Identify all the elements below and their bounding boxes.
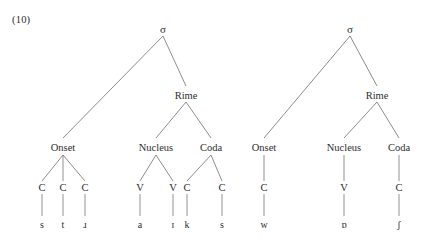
tree2-segment-open-o: ɒ xyxy=(341,220,346,230)
branch-sigma-onset-2 xyxy=(264,36,350,138)
tree2-nucleus-node: Nucleus xyxy=(327,143,361,154)
branch-onset-c3-1 xyxy=(63,155,85,181)
tree-branch-lines xyxy=(0,0,426,244)
branch-rime-nucleus-1 xyxy=(156,102,186,138)
branch-sigma-rime-2 xyxy=(350,36,377,86)
example-number: (10) xyxy=(12,14,30,25)
tree1-onset-slot-2: C xyxy=(59,183,66,194)
branch-coda-c1-1 xyxy=(187,155,211,181)
branch-onset-c1-1 xyxy=(42,155,63,181)
tree1-segment-i: ɪ xyxy=(172,220,175,230)
tree1-segment-s: s xyxy=(40,220,44,230)
tree2-nucleus-slot-1: V xyxy=(340,183,348,194)
tree1-coda-slot-2: C xyxy=(218,183,225,194)
tree2-rime-node: Rime xyxy=(366,91,389,102)
tree1-onset-slot-1: C xyxy=(38,183,45,194)
tree1-onset-node: Onset xyxy=(51,143,76,154)
tree1-segment-a: a xyxy=(138,220,142,230)
tree1-nucleus-node: Nucleus xyxy=(139,143,173,154)
tree1-sigma-node: σ xyxy=(160,24,166,35)
tree2-segment-w: w xyxy=(260,220,267,230)
tree1-rime-node: Rime xyxy=(175,91,198,102)
diagram-canvas: (10) xyxy=(0,0,426,244)
branch-coda-c2-1 xyxy=(211,155,222,181)
tree1-segment-k: k xyxy=(185,220,190,230)
tree1-coda-slot-1: C xyxy=(183,183,190,194)
tree2-sigma-node: σ xyxy=(347,24,353,35)
tree1-coda-node: Coda xyxy=(200,143,222,154)
branch-rime-nucleus-2 xyxy=(344,102,377,138)
tree2-segment-esh: ʃ xyxy=(397,220,400,230)
tree2-onset-node: Onset xyxy=(252,143,277,154)
tree1-onset-slot-3: C xyxy=(81,183,88,194)
branch-rime-coda-2 xyxy=(377,102,399,138)
tree1-segment-r: ɹ xyxy=(83,220,86,230)
tree1-segment-s-final: s xyxy=(220,220,224,230)
tree2-coda-node: Coda xyxy=(388,143,410,154)
tree2-onset-slot-1: C xyxy=(260,183,267,194)
tree1-segment-t: t xyxy=(62,220,65,230)
branch-nucleus-v1-1 xyxy=(140,155,156,181)
branch-sigma-onset-1 xyxy=(63,36,163,138)
branch-nucleus-v2-1 xyxy=(156,155,173,181)
tree1-nucleus-slot-2: V xyxy=(169,183,177,194)
tree1-nucleus-slot-1: V xyxy=(136,183,144,194)
branch-rime-coda-1 xyxy=(186,102,211,138)
branch-sigma-rime-1 xyxy=(163,36,186,86)
tree2-coda-slot-1: C xyxy=(395,183,402,194)
